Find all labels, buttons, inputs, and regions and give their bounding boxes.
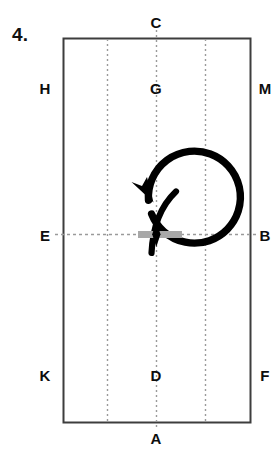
point-label-F: F: [260, 368, 269, 383]
point-label-A: A: [150, 431, 161, 446]
point-label-E: E: [40, 228, 50, 243]
point-label-B: B: [259, 228, 270, 243]
point-label-C: C: [150, 15, 161, 30]
point-label-G: G: [150, 81, 162, 96]
figure-number: 4.: [12, 25, 28, 44]
point-label-D: D: [150, 368, 161, 383]
point-label-K: K: [39, 368, 50, 383]
point-label-M: M: [259, 81, 272, 96]
point-label-H: H: [39, 81, 50, 96]
figure-container: 4. C H G M E B K D F A: [0, 0, 280, 456]
